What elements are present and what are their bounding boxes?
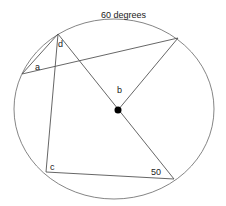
- label-d: d: [58, 39, 63, 49]
- label-60-degrees: 60 degrees: [101, 10, 147, 20]
- label-a: a: [35, 62, 40, 72]
- label-50: 50: [151, 167, 161, 177]
- radius-center-to-top-right: [118, 38, 178, 110]
- chord-d-to-c: [46, 34, 58, 172]
- center-dot: [115, 107, 122, 114]
- label-b: b: [117, 85, 122, 95]
- circle-outline: [14, 19, 214, 199]
- circle-diagram: 60 degrees d a b c 50: [0, 0, 226, 206]
- diameter-d-to-bottom-right: [58, 34, 174, 179]
- label-c: c: [50, 162, 55, 172]
